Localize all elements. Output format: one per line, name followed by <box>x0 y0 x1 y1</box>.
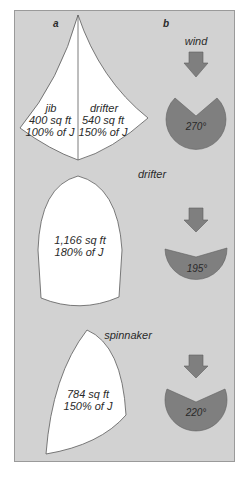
drifter-name-middle: drifter <box>138 168 167 180</box>
wind-arrow-icon <box>184 52 208 77</box>
wind-label: wind <box>185 35 209 47</box>
wind-arrow-icon <box>184 355 208 378</box>
spinnaker-name: spinnaker <box>104 329 153 341</box>
spinnaker-area: 784 sq ft <box>67 388 110 400</box>
panel-label-a: a <box>53 18 59 29</box>
spinnaker-percent: 150% of J <box>64 400 113 412</box>
drifter-percent-top: 150% of J <box>79 126 128 138</box>
sector-270-label: 270° <box>185 121 207 132</box>
jib-percent: 100% of J <box>26 126 75 138</box>
drifter-name-top: drifter <box>90 102 119 114</box>
sector-195-label: 195° <box>187 263 208 274</box>
jib-drifter-sail <box>20 15 148 160</box>
sail-diagram: a b jib 400 sq ft 100% of J drifter 540 … <box>0 0 244 485</box>
sector-220-label: 220° <box>185 407 207 418</box>
drifter-large-percent: 180% of J <box>55 246 104 258</box>
jib-name: jib <box>43 102 56 114</box>
drifter-area-top: 540 sq ft <box>82 114 125 126</box>
wind-arrow-icon <box>184 208 208 232</box>
jib-area: 400 sq ft <box>29 114 72 126</box>
panel-label-b: b <box>163 18 169 29</box>
drifter-large-area: 1,166 sq ft <box>54 234 106 246</box>
